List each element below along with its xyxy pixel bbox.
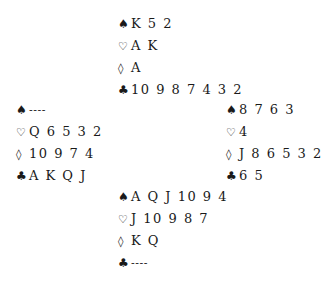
west-hearts-row: ♡Q 6 5 3 2 [16,121,103,143]
hand-west: ♠---- ♡Q 6 5 3 2 ◊10 9 7 4 ♣A K Q J [16,99,103,187]
north-hearts: A K [131,38,159,53]
north-clubs-row: ♣10 9 8 7 4 3 2 [118,79,243,101]
north-spades-row: ♠K 5 2 [118,13,243,35]
west-diamonds: 10 9 7 4 [29,146,95,161]
club-icon: ♣ [118,79,130,101]
club-icon: ♣ [226,165,238,187]
east-hearts: 4 [239,124,249,139]
north-spades: K 5 2 [131,16,173,31]
west-diamonds-row: ◊10 9 7 4 [16,143,103,165]
south-clubs-row: ♣---- [118,252,228,274]
north-diamonds-row: ◊A [118,57,243,79]
west-hearts: Q 6 5 3 2 [29,124,103,139]
diamond-icon: ◊ [118,58,130,80]
east-clubs: 6 5 [239,168,264,183]
west-spades: ---- [29,104,46,117]
heart-icon: ♡ [226,122,238,144]
spade-icon: ♠ [118,13,130,35]
club-icon: ♣ [16,165,28,187]
south-diamonds-row: ◊K Q [118,230,228,252]
east-diamonds-row: ◊J 8 6 5 3 2 [226,143,323,165]
west-clubs: A K Q J [29,168,87,183]
hand-south: ♠A Q J 10 9 4 ♡J 10 9 8 7 ◊K Q ♣---- [118,186,228,274]
south-spades: A Q J 10 9 4 [131,189,228,204]
west-clubs-row: ♣A K Q J [16,165,103,187]
diamond-icon: ◊ [226,144,238,166]
east-diamonds: J 8 6 5 3 2 [239,146,323,161]
south-spades-row: ♠A Q J 10 9 4 [118,186,228,208]
north-diamonds: A [131,60,142,75]
north-hearts-row: ♡A K [118,35,243,57]
hand-north: ♠K 5 2 ♡A K ◊A ♣10 9 8 7 4 3 2 [118,13,243,101]
east-clubs-row: ♣6 5 [226,165,323,187]
south-diamonds: K Q [131,233,160,248]
east-hearts-row: ♡4 [226,121,323,143]
spade-icon: ♠ [118,186,130,208]
diamond-icon: ◊ [16,144,28,166]
spade-icon: ♠ [16,99,28,121]
east-spades-row: ♠8 7 6 3 [226,99,323,121]
heart-icon: ♡ [16,122,28,144]
west-spades-row: ♠---- [16,99,103,121]
heart-icon: ♡ [118,209,130,231]
north-clubs: 10 9 8 7 4 3 2 [131,82,243,97]
south-hearts: J 10 9 8 7 [131,211,209,226]
south-clubs: ---- [131,257,148,270]
hand-east: ♠8 7 6 3 ♡4 ◊J 8 6 5 3 2 ♣6 5 [226,99,323,187]
south-hearts-row: ♡J 10 9 8 7 [118,208,228,230]
east-spades: 8 7 6 3 [239,102,295,117]
heart-icon: ♡ [118,36,130,58]
spade-icon: ♠ [226,99,238,121]
club-icon: ♣ [118,252,130,274]
diamond-icon: ◊ [118,231,130,253]
